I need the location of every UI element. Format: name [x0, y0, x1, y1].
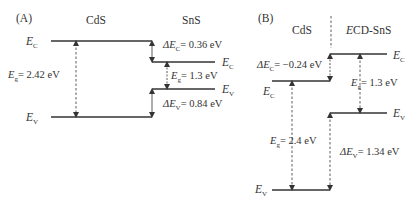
panel-b-label: (B) [258, 12, 274, 25]
panel-a-cds-ec-label: EC [25, 35, 38, 50]
panel-a-label: (A) [16, 12, 32, 25]
band-alignment-diagram: (A) CdS SnS EC EV Eg= 2.42 eV EC EV ΔEC=… [0, 0, 416, 208]
panel-a-sns-ev-label: EV [221, 83, 234, 98]
panel-a-right-material: SnS [182, 14, 201, 26]
panel-b-left-material: CdS [292, 24, 312, 36]
panel-b-sns-ev-label: EV [392, 107, 405, 122]
panel-b: (B) CdS ECD-SnS EC EV EC EV ΔEC= −0.24 e… [254, 12, 405, 198]
panel-a-left-material: CdS [86, 14, 106, 26]
panel-a-delta-ec-label: ΔEC= 0.36 eV [162, 39, 222, 53]
panel-a-sns-ec-label: EC [221, 56, 234, 71]
panel-b-delta-ec-label: ΔEC= −0.24 eV [256, 59, 322, 73]
panel-b-sns-eg-label: Eg= 1.3 eV [350, 77, 398, 91]
panel-b-delta-ev-label: ΔEV= 1.34 eV [339, 146, 400, 160]
panel-a: (A) CdS SnS EC EV Eg= 2.42 eV EC EV ΔEC=… [7, 12, 234, 126]
panel-b-right-material: ECD-SnS [345, 24, 391, 36]
panel-b-cds-ec-label: EC [262, 85, 275, 100]
panel-b-cds-ev-label: EV [254, 183, 267, 198]
panel-a-sns-eg-label: Eg= 1.3 eV [170, 70, 218, 84]
panel-a-delta-ev-label: ΔEV= 0.84 eV [162, 98, 223, 112]
panel-a-cds-eg-label: Eg= 2.42 eV [7, 69, 60, 83]
panel-b-sns-ec-label: EC [392, 49, 405, 64]
panel-b-cds-eg-label: Eg= 2.4 eV [269, 135, 317, 149]
panel-a-cds-ev-label: EV [25, 111, 38, 126]
